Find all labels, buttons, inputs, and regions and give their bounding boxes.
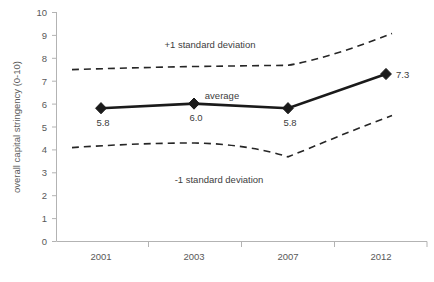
x-tick-label-2007: 2007 xyxy=(277,251,298,262)
data-label-2007: 5.8 xyxy=(283,117,296,128)
annotation-plus-one-sd: +1 standard deviation xyxy=(164,39,255,50)
y-tick-label-0: 0 xyxy=(42,236,47,247)
data-label-2001: 5.8 xyxy=(96,117,109,128)
capital-stringency-line-chart: 10 9 8 7 6 5 4 3 2 1 0 2001 2003 2007 20… xyxy=(0,0,434,282)
annotation-minus-one-sd: -1 standard deviation xyxy=(175,174,264,185)
y-tick-label-2: 2 xyxy=(42,190,47,201)
y-tick-label-3: 3 xyxy=(42,167,47,178)
annotation-average: average xyxy=(205,90,239,101)
y-tick-label-8: 8 xyxy=(42,53,47,64)
data-label-2003: 6.0 xyxy=(189,112,202,123)
y-tick-label-9: 9 xyxy=(42,30,47,41)
y-tick-label-4: 4 xyxy=(42,144,47,155)
x-tick-label-2012: 2012 xyxy=(370,251,391,262)
y-axis-title: overall capital stringency (0-10) xyxy=(11,61,22,193)
y-tick-label-5: 5 xyxy=(42,122,47,133)
y-tick-label-7: 7 xyxy=(42,76,47,87)
chart-container: 10 9 8 7 6 5 4 3 2 1 0 2001 2003 2007 20… xyxy=(0,0,434,282)
data-label-2012: 7.3 xyxy=(396,69,409,80)
x-tick-label-2003: 2003 xyxy=(183,251,204,262)
y-tick-label-10: 10 xyxy=(36,7,47,18)
y-tick-label-6: 6 xyxy=(42,99,47,110)
x-tick-label-2001: 2001 xyxy=(90,251,111,262)
y-tick-label-1: 1 xyxy=(42,213,47,224)
